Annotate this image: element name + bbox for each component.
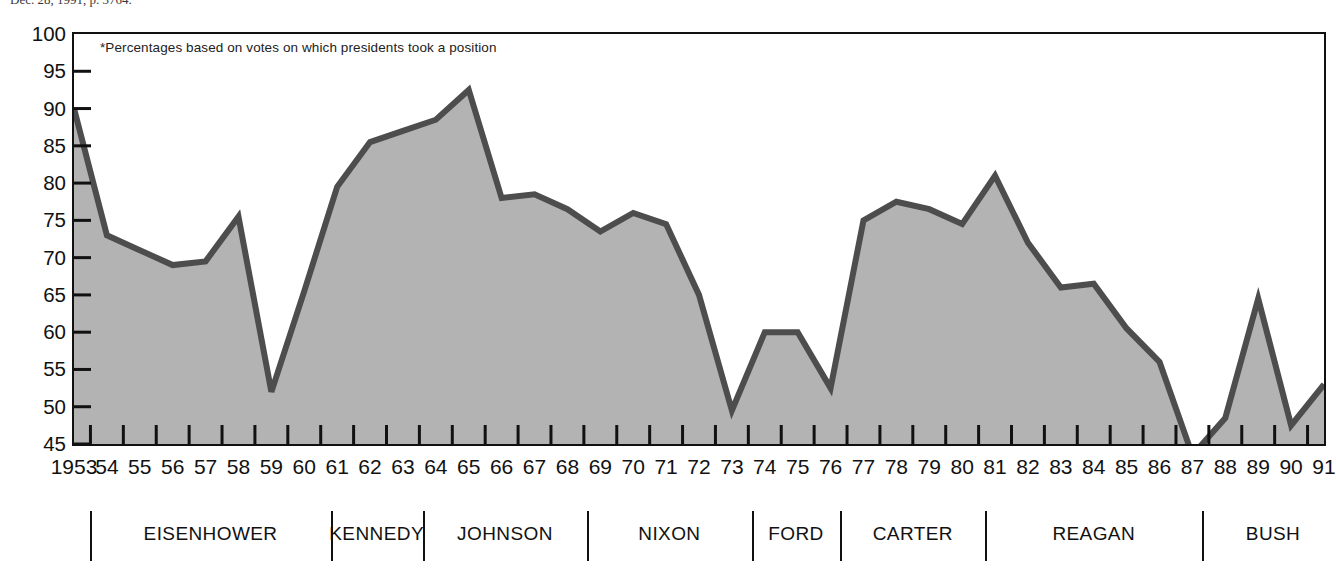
- x-tick-label: 83: [1049, 455, 1072, 479]
- x-tick-label: 54: [95, 455, 118, 479]
- president-label-bush: BUSH: [1246, 523, 1300, 545]
- x-tick-label: 75: [786, 455, 809, 479]
- president-label-kennedy: KENNEDY: [329, 523, 424, 545]
- x-tick-label: 72: [687, 455, 710, 479]
- x-tick-label: 77: [852, 455, 875, 479]
- x-tick-label: 85: [1115, 455, 1138, 479]
- x-tick-label: 78: [885, 455, 908, 479]
- plot-area: *Percentages based on votes on which pre…: [72, 32, 1326, 446]
- x-tick-label: 70: [622, 455, 645, 479]
- president-divider: [587, 511, 589, 561]
- x-tick-label: 73: [720, 455, 743, 479]
- y-tick-label: 90: [18, 97, 66, 121]
- area-fill: [74, 90, 1324, 444]
- y-tick-label: 85: [18, 134, 66, 158]
- x-tick-label: 69: [589, 455, 612, 479]
- x-tick-label: 65: [457, 455, 480, 479]
- x-tick-label: 57: [194, 455, 217, 479]
- x-tick-label: 67: [523, 455, 546, 479]
- y-tick-label: 50: [18, 395, 66, 419]
- x-tick-label: 82: [1016, 455, 1039, 479]
- x-tick-label: 89: [1247, 455, 1270, 479]
- y-axis-tick-labels: 1009590858075706560555045: [0, 0, 66, 569]
- x-tick-label: 84: [1082, 455, 1105, 479]
- x-tick-label: 90: [1279, 455, 1302, 479]
- x-tick-label: 86: [1148, 455, 1171, 479]
- x-tick-label: 58: [227, 455, 250, 479]
- president-label-reagan: REAGAN: [1052, 523, 1135, 545]
- x-tick-label: 64: [424, 455, 447, 479]
- x-tick-label: 81: [983, 455, 1006, 479]
- area-chart-svg: [74, 34, 1324, 444]
- president-divider: [985, 511, 987, 561]
- x-tick-label: 59: [260, 455, 283, 479]
- x-tick-label: 68: [556, 455, 579, 479]
- x-tick-label: 80: [950, 455, 973, 479]
- x-tick-label: 71: [654, 455, 677, 479]
- president-label-carter: CARTER: [873, 523, 953, 545]
- president-label-ford: FORD: [768, 523, 823, 545]
- president-band: EISENHOWERKENNEDYJOHNSONNIXONFORDCARTERR…: [0, 505, 1335, 569]
- y-tick-label: 80: [18, 171, 66, 195]
- x-tick-label: 66: [490, 455, 513, 479]
- x-tick-label: 60: [293, 455, 316, 479]
- y-tick-label: 75: [18, 208, 66, 232]
- president-divider: [1202, 511, 1204, 561]
- x-tick-label: 56: [161, 455, 184, 479]
- x-tick-label: 88: [1214, 455, 1237, 479]
- president-label-johnson: JOHNSON: [457, 523, 553, 545]
- president-label-eisenhower: EISENHOWER: [144, 523, 278, 545]
- x-tick-label: 61: [325, 455, 348, 479]
- x-tick-label: 87: [1181, 455, 1204, 479]
- x-tick-label: 62: [358, 455, 381, 479]
- x-tick-label: 91: [1312, 455, 1335, 479]
- y-tick-label: 65: [18, 283, 66, 307]
- x-tick-label: 79: [918, 455, 941, 479]
- x-tick-label: 63: [391, 455, 414, 479]
- y-tick-label: 60: [18, 320, 66, 344]
- x-tick-label: 76: [819, 455, 842, 479]
- chart-footnote: *Percentages based on votes on which pre…: [100, 40, 497, 55]
- y-tick-label: 100: [18, 22, 66, 46]
- president-divider: [90, 511, 92, 561]
- y-tick-label: 55: [18, 357, 66, 381]
- x-tick-label: 1953: [51, 455, 98, 479]
- x-tick-label: 74: [753, 455, 776, 479]
- president-divider: [840, 511, 842, 561]
- president-divider: [752, 511, 754, 561]
- president-label-nixon: NIXON: [638, 523, 700, 545]
- y-tick-label: 70: [18, 246, 66, 270]
- y-tick-label: 95: [18, 59, 66, 83]
- y-tick-label: 45: [18, 432, 66, 456]
- x-tick-label: 55: [128, 455, 151, 479]
